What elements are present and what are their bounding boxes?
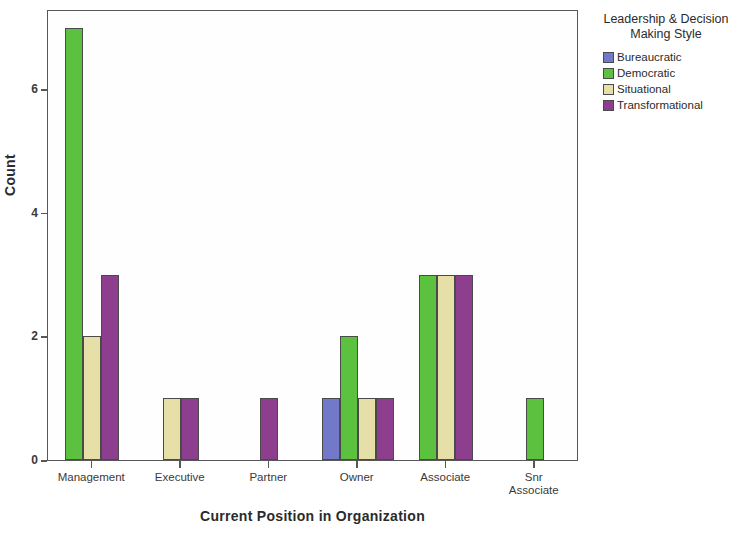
y-axis-title: Count [2,154,18,196]
bar [455,275,473,460]
x-tick-mark [268,461,270,468]
bar [260,398,278,460]
legend-item: Situational [603,82,749,97]
x-axis: ManagementExecutivePartnerOwnerAssociate… [47,461,578,511]
legend: Leadership & Decision Making Style Burea… [583,12,749,114]
bar [163,398,181,460]
legend-item-label: Transformational [617,99,703,112]
x-tick-mark [533,461,535,468]
x-tick-mark [179,461,181,468]
legend-swatch-icon [603,68,614,79]
y-tick-label: 6 [31,81,38,97]
bar [101,275,119,460]
y-axis: 0246 [0,0,47,471]
bar [526,398,544,460]
x-tick-label: Snr Associate [509,471,559,497]
x-axis-title: Current Position in Organization [47,508,578,524]
legend-item: Transformational [603,98,749,113]
y-tick-label: 2 [31,328,38,344]
bar [322,398,340,460]
bar [419,275,437,460]
legend-swatch-icon [603,100,614,111]
x-tick-label: Associate [420,471,470,484]
x-tick-mark [356,461,358,468]
x-tick-label: Executive [155,471,205,484]
plot-frame [47,10,578,461]
legend-item-label: Bureaucratic [617,51,682,64]
bar [181,398,199,460]
legend-item: Democratic [603,66,749,81]
legend-item-label: Democratic [617,67,675,80]
x-tick-label: Management [58,471,125,484]
bar [437,275,455,460]
y-tick-label: 0 [31,452,38,468]
bar-chart-figure: 0246 Count ManagementExecutivePartnerOwn… [0,0,752,536]
y-tick-label: 4 [31,205,38,221]
legend-swatch-icon [603,52,614,63]
plot-area [48,11,577,460]
x-tick-label: Partner [249,471,287,484]
x-tick-mark [91,461,93,468]
legend-item-label: Situational [617,83,671,96]
bar [376,398,394,460]
x-tick-label: Owner [340,471,374,484]
legend-item: Bureaucratic [603,50,749,65]
bar [358,398,376,460]
bar [340,336,358,460]
bar [83,336,101,460]
bar [65,28,83,460]
x-tick-mark [445,461,447,468]
legend-swatch-icon [603,84,614,95]
legend-title: Leadership & Decision Making Style [583,12,749,42]
legend-items: BureaucraticDemocraticSituationalTransfo… [603,50,749,113]
